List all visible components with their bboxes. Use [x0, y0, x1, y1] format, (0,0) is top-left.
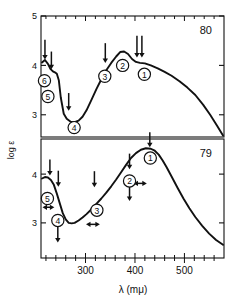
- marker-label: 2: [127, 176, 132, 186]
- marker-label: 5: [45, 194, 50, 204]
- marker-label: 6: [42, 76, 47, 86]
- band-marker-1: 1: [144, 152, 156, 164]
- band-marker-6: 6: [38, 75, 50, 87]
- band-marker-4: 4: [68, 122, 80, 134]
- band-marker-2: 2: [123, 175, 135, 187]
- band-marker-3: 3: [99, 70, 111, 82]
- band-marker-3: 3: [91, 204, 103, 216]
- band-marker-5: 5: [42, 90, 54, 102]
- marker-label: 1: [148, 153, 153, 163]
- band-marker-4: 4: [52, 214, 64, 226]
- marker-label: 1: [142, 70, 147, 80]
- band-marker-5: 5: [41, 192, 53, 204]
- panel-number-label: 79: [200, 147, 212, 159]
- figure-container: 54312345680 431234579 300400500 log ε λ …: [0, 0, 233, 300]
- marker-label: 4: [55, 216, 60, 226]
- y-tick-label: 4: [32, 61, 37, 71]
- panel-number-label: 80: [200, 24, 212, 36]
- marker-label: 2: [120, 61, 125, 71]
- y-tick-label: 5: [32, 11, 37, 21]
- figure-background: [0, 0, 233, 300]
- marker-label: 5: [46, 92, 51, 102]
- x-tick-label: 500: [176, 265, 193, 276]
- spectra-figure: 54312345680 431234579 300400500 log ε λ …: [0, 0, 233, 300]
- y-tick-label: 3: [32, 218, 37, 228]
- marker-label: 4: [72, 123, 77, 133]
- x-tick-label: 400: [127, 265, 144, 276]
- y-tick-label: 4: [32, 170, 37, 180]
- x-tick-label: 300: [77, 265, 94, 276]
- x-axis-label: λ (mμ): [119, 284, 148, 295]
- marker-label: 3: [94, 206, 99, 216]
- y-axis-label: log ε: [6, 141, 16, 160]
- band-marker-2: 2: [117, 59, 129, 71]
- y-tick-label: 3: [32, 110, 37, 120]
- marker-label: 3: [102, 72, 107, 82]
- band-marker-1: 1: [138, 68, 150, 80]
